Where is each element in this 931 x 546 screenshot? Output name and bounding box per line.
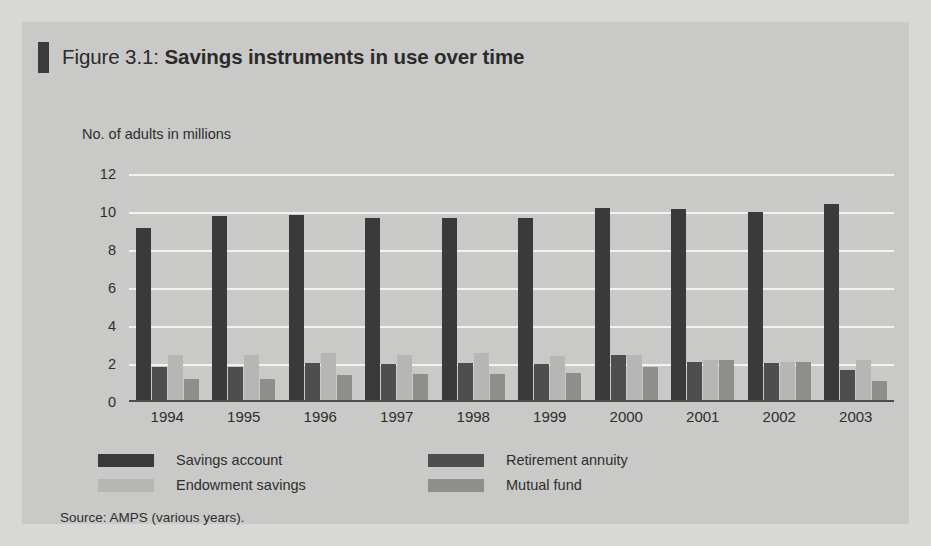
bar — [381, 364, 396, 400]
legend-label: Savings account — [176, 452, 282, 468]
bar — [872, 381, 887, 400]
bar — [152, 367, 167, 400]
bar — [687, 362, 702, 400]
title-bar-mark-icon — [38, 42, 49, 73]
bar-group — [359, 174, 436, 400]
bar-group — [588, 174, 665, 400]
plot-area: 024681012 — [82, 174, 894, 406]
chart-legend: Savings accountRetirement annuityEndowme… — [98, 452, 738, 493]
x-axis-tick-label: 1999 — [512, 408, 589, 425]
bar — [611, 355, 626, 400]
x-axis-tick-label: 1994 — [129, 408, 206, 425]
x-axis-tick-label: 1997 — [359, 408, 436, 425]
y-axis-tick-label: 8 — [108, 242, 116, 258]
bar — [643, 367, 658, 400]
bar — [703, 360, 718, 400]
y-axis-tick-label: 10 — [100, 204, 116, 220]
figure-title: Figure 3.1: Savings instruments in use o… — [38, 40, 524, 74]
bar — [719, 360, 734, 400]
legend-swatch — [428, 479, 484, 492]
bar — [184, 379, 199, 400]
source-note: Source: AMPS (various years). — [60, 510, 245, 525]
bar-group — [512, 174, 589, 400]
figure-number: Figure 3.1: — [62, 45, 159, 68]
bar — [228, 367, 243, 400]
figure-name: Savings instruments in use over time — [165, 45, 525, 68]
y-axis-label: No. of adults in millions — [82, 126, 231, 142]
bar — [458, 363, 473, 400]
x-axis-tick-label: 2003 — [818, 408, 895, 425]
bar — [321, 353, 336, 400]
figure-panel: Figure 3.1: Savings instruments in use o… — [22, 22, 909, 524]
bar — [764, 363, 779, 400]
y-axis-tick-label: 4 — [108, 318, 116, 334]
bar — [566, 373, 581, 400]
bar — [671, 209, 686, 400]
bar — [397, 355, 412, 400]
bar — [627, 355, 642, 400]
legend-item: Endowment savings — [98, 477, 428, 493]
legend-label: Endowment savings — [176, 477, 306, 493]
bar — [168, 355, 183, 400]
y-axis-tick-label: 0 — [108, 394, 116, 410]
x-axis-tick-label: 2000 — [588, 408, 665, 425]
x-axis-tick-labels: 1994199519961997199819992000200120022003 — [129, 408, 894, 425]
bar — [305, 363, 320, 400]
x-axis-tick-label: 2002 — [741, 408, 818, 425]
bar — [260, 379, 275, 400]
grid-area — [129, 174, 894, 402]
bar — [748, 212, 763, 400]
bar — [337, 375, 352, 400]
bar — [212, 216, 227, 400]
x-axis-tick-label: 1996 — [282, 408, 359, 425]
bar-groups — [129, 174, 894, 400]
bar — [824, 204, 839, 400]
bar-group — [282, 174, 359, 400]
bar — [780, 362, 795, 400]
legend-swatch — [428, 454, 484, 467]
legend-label: Mutual fund — [506, 477, 582, 493]
legend-item: Savings account — [98, 452, 428, 468]
y-axis-tick-label: 6 — [108, 280, 116, 296]
legend-label: Retirement annuity — [506, 452, 628, 468]
bar-group — [206, 174, 283, 400]
x-axis-tick-label: 1998 — [435, 408, 512, 425]
x-axis-tick-label: 2001 — [665, 408, 742, 425]
page-background: Figure 3.1: Savings instruments in use o… — [0, 0, 931, 546]
bar — [595, 208, 610, 400]
bar — [365, 218, 380, 400]
bar — [550, 356, 565, 400]
bar — [518, 218, 533, 400]
bar — [474, 353, 489, 400]
bar — [796, 362, 811, 400]
page-title: Figure 3.1: Savings instruments in use o… — [62, 45, 524, 69]
bar — [413, 374, 428, 400]
bar — [490, 374, 505, 400]
legend-item: Mutual fund — [428, 477, 758, 493]
bar — [534, 364, 549, 400]
y-axis-tick-label: 12 — [100, 166, 116, 182]
bar — [856, 360, 871, 400]
bar-group — [665, 174, 742, 400]
bar — [136, 228, 151, 400]
bar — [442, 218, 457, 400]
bar-group — [741, 174, 818, 400]
legend-swatch — [98, 479, 154, 492]
x-axis-tick-label: 1995 — [206, 408, 283, 425]
y-axis-tick-label: 2 — [108, 356, 116, 372]
bar — [840, 370, 855, 400]
legend-swatch — [98, 454, 154, 467]
bar-group — [435, 174, 512, 400]
bar-group — [818, 174, 895, 400]
x-axis-line — [129, 400, 894, 402]
bar-group — [129, 174, 206, 400]
legend-item: Retirement annuity — [428, 452, 758, 468]
bar — [244, 355, 259, 400]
y-axis-ticks: 024681012 — [82, 174, 122, 402]
bar — [289, 215, 304, 400]
